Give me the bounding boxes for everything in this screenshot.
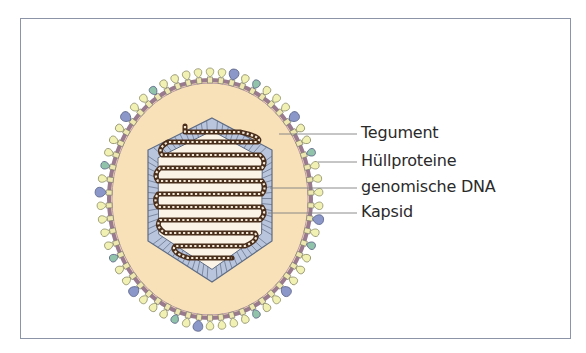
virus-diagram: [0, 0, 586, 353]
label-huellproteine: Hüllproteine: [361, 152, 456, 170]
label-tegument: Tegument: [361, 124, 438, 142]
label-kapsid: Kapsid: [361, 203, 413, 221]
label-genomische-dna: genomische DNA: [361, 178, 496, 196]
